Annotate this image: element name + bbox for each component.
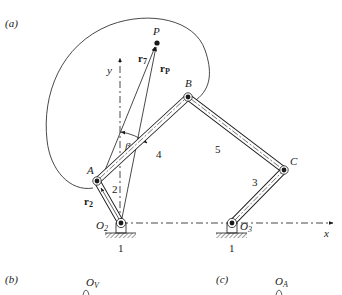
velocity-origin-marker [83, 290, 89, 295]
vector-rP-label: rP [160, 62, 170, 76]
joint-A-label: A [86, 164, 94, 176]
x-axis-label: x [323, 227, 329, 239]
velocity-origin-label: OV [86, 276, 100, 290]
point-P [154, 40, 159, 45]
pivot-O3-label: O3 [240, 220, 252, 234]
joint-C-label: C [290, 155, 298, 167]
link-4 [97, 97, 188, 181]
pivot-O2-label: O2 [96, 219, 108, 233]
link-2-label: 2 [112, 183, 118, 195]
vector-r7-label: r7 [138, 52, 147, 66]
link-4-label: 4 [156, 148, 162, 160]
joint-C [280, 166, 288, 174]
acceleration-origin-label: OA [275, 275, 288, 289]
acceleration-origin-marker [276, 290, 282, 295]
y-axis-label: y [106, 64, 112, 76]
ground-link-1-left-label: 1 [118, 242, 124, 254]
joint-B [184, 93, 192, 101]
ground-link-1-right-label: 1 [229, 242, 235, 254]
link-3-label: 3 [252, 176, 258, 188]
joint-B-label: B [185, 77, 192, 89]
vector-r2-label: r2 [84, 195, 93, 209]
panel-label-b: (b) [5, 273, 18, 286]
four-bar-linkage-diagram: (a) y x P r7 rP β 4 5 3 r2 [0, 0, 342, 295]
panel-label-a: (a) [5, 17, 18, 30]
ground-pivot-O2 [105, 218, 136, 238]
link-5 [188, 97, 284, 170]
link-3 [232, 170, 284, 223]
joint-A [93, 177, 101, 185]
panel-label-c: (c) [216, 273, 229, 286]
link-5-label: 5 [215, 143, 221, 155]
point-P-label: P [152, 25, 160, 37]
